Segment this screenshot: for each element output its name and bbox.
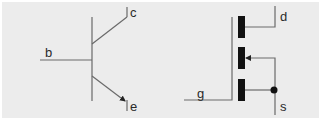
mosfet-label-source: s xyxy=(280,99,287,114)
bjt-label-emitter: e xyxy=(130,99,137,114)
bjt-emitter-arrow-icon xyxy=(92,76,125,101)
mosfet-label-gate: g xyxy=(197,86,204,101)
transistor-symbols: b c e g d s xyxy=(0,0,321,120)
mosfet-gate-lead xyxy=(184,17,232,100)
mosfet-channel-drain xyxy=(238,16,245,38)
mosfet-junction-dot xyxy=(271,87,278,94)
bjt-label-collector: c xyxy=(130,5,137,20)
mosfet-channel-body xyxy=(238,47,245,69)
mosfet-drain-lead xyxy=(244,6,275,27)
mosfet-channel-source xyxy=(238,79,245,101)
bjt-collector-lead xyxy=(92,17,127,44)
bjt-label-base: b xyxy=(45,45,52,60)
bjt-symbol xyxy=(40,7,127,111)
mosfet-body-arrow-icon xyxy=(246,58,275,90)
mosfet-label-drain: d xyxy=(280,9,287,24)
